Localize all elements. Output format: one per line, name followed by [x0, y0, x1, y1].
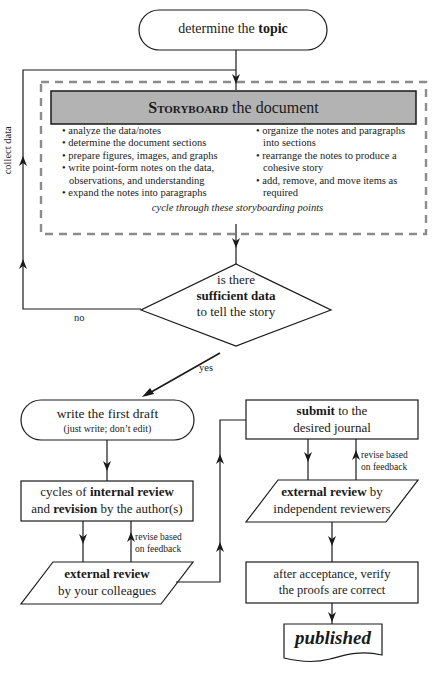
- decision-line-2: sufficient data: [176, 288, 296, 304]
- list-item: • determine the document sections: [60, 137, 218, 149]
- list-item: • write point-form notes on the data,: [60, 162, 218, 174]
- start-label: determine the topic: [139, 21, 327, 38]
- revise-feedback-label-1: revise based on feedback: [135, 531, 182, 555]
- acceptance-label: after acceptance, verify the proofs are …: [246, 566, 418, 598]
- list-item: • expand the notes into paragraphs: [60, 187, 218, 199]
- first-draft-subtitle: (just write; don’t edit): [21, 422, 194, 435]
- decision-line-1: is there: [176, 272, 296, 288]
- list-item-continuation: required: [254, 187, 405, 199]
- submit-label: submit to the desired journal: [246, 403, 418, 436]
- arrowhead-icon: [142, 388, 154, 397]
- yes-label: yes: [199, 362, 213, 375]
- storyboard-title: Storyboard the document: [51, 98, 416, 117]
- revise-feedback-label-2: revise based on feedback: [361, 449, 408, 473]
- list-item-continuation: observations, and understanding: [60, 175, 218, 187]
- storyboard-title-bold: Storyboard: [148, 99, 228, 116]
- independent-review-label: external review by independent reviewers: [255, 484, 409, 517]
- list-item: • prepare figures, images, and graphs: [60, 150, 218, 162]
- list-item: • organize the notes and paragraphs: [254, 125, 405, 137]
- cycle-note: cycle through these storyboarding points: [130, 202, 345, 215]
- no-label: no: [74, 312, 85, 325]
- list-item: • analyze the data/notes: [60, 125, 218, 137]
- decision-line-3: to tell the story: [176, 304, 296, 320]
- start-label-text: determine the: [178, 21, 258, 36]
- start-label-bold: topic: [258, 21, 288, 36]
- published-label: published: [284, 627, 382, 650]
- first-draft-title: write the first draft: [21, 405, 194, 422]
- collect-data-label: collect data: [2, 120, 15, 180]
- first-draft-label: write the first draft (just write; don’t…: [21, 405, 194, 435]
- list-item: • rearrange the notes to produce a: [254, 150, 405, 162]
- decision-label: is there sufficient data to tell the sto…: [176, 272, 296, 320]
- list-item: • add, remove, and move items as: [254, 175, 405, 187]
- internal-review-label: cycles of internal review and revision b…: [21, 484, 193, 517]
- storyboard-title-rest: the document: [228, 99, 319, 116]
- storyboard-right-list: • organize the notes and paragraphs into…: [254, 125, 405, 199]
- storyboard-left-list: • analyze the data/notes • determine the…: [60, 125, 218, 199]
- colleague-review-label: external review by your colleagues: [30, 566, 184, 599]
- list-item-continuation: cohesive story: [254, 162, 405, 174]
- list-item-continuation: into sections: [254, 137, 405, 149]
